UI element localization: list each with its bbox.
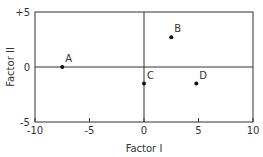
x-axis-label: Factor I bbox=[126, 143, 163, 154]
y-tick-label: -5 bbox=[20, 117, 30, 128]
y-axis-label: Factor II bbox=[5, 47, 16, 87]
x-tick-label: -5 bbox=[85, 125, 95, 136]
point-label: D bbox=[199, 70, 207, 81]
y-tick-label: +5 bbox=[15, 7, 30, 18]
x-tick-label: 5 bbox=[195, 125, 201, 136]
scatter-chart: -10-50510+50-5 ABCD Factor I Factor II bbox=[0, 0, 263, 157]
point-label: B bbox=[174, 23, 181, 34]
data-point-c bbox=[142, 82, 146, 86]
point-label: C bbox=[147, 70, 154, 81]
x-tick-label: 10 bbox=[247, 125, 260, 136]
x-tick-label: 0 bbox=[141, 125, 147, 136]
point-label: A bbox=[65, 53, 72, 64]
data-point-b bbox=[169, 35, 173, 39]
data-point-a bbox=[60, 65, 64, 69]
y-tick-label: 0 bbox=[24, 62, 30, 73]
data-point-d bbox=[194, 82, 198, 86]
